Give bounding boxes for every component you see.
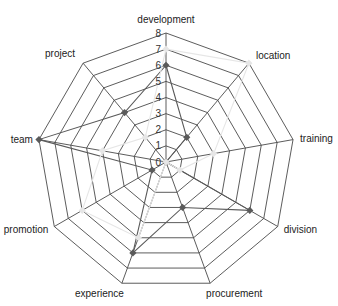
tick-label: 7 bbox=[155, 44, 161, 55]
category-label-procurement: procurement bbox=[206, 288, 262, 299]
diamond-marker-icon bbox=[162, 46, 169, 53]
radar-chart: 012345678 developmentlocationtrainingdiv… bbox=[0, 0, 338, 306]
diamond-marker-icon bbox=[35, 136, 42, 143]
tick-label: 1 bbox=[155, 140, 161, 151]
category-label-team: team bbox=[11, 134, 33, 145]
tick-label: 4 bbox=[155, 92, 161, 103]
tick-label: 6 bbox=[155, 60, 161, 71]
tick-label: 3 bbox=[155, 108, 161, 119]
category-label-promotion: promotion bbox=[4, 224, 48, 235]
category-label-location: location bbox=[256, 50, 290, 61]
tick-label: 8 bbox=[155, 28, 161, 39]
series-1 bbox=[35, 62, 253, 257]
category-label-project: project bbox=[45, 48, 75, 59]
radial-tick-labels: 012345678 bbox=[155, 28, 161, 168]
radar-series bbox=[35, 46, 253, 257]
category-label-training: training bbox=[300, 133, 333, 144]
category-label-division: division bbox=[284, 224, 317, 235]
category-label-development: development bbox=[137, 14, 194, 25]
tick-label: 5 bbox=[155, 76, 161, 87]
category-label-experience: experience bbox=[75, 288, 124, 299]
tick-label: 0 bbox=[155, 157, 161, 168]
tick-label: 2 bbox=[155, 124, 161, 135]
diamond-marker-icon bbox=[99, 147, 106, 154]
diamond-marker-icon bbox=[210, 150, 217, 157]
category-labels: developmentlocationtrainingdivisionprocu… bbox=[4, 14, 333, 299]
series-line bbox=[39, 65, 250, 253]
axis-promotion bbox=[54, 162, 166, 227]
